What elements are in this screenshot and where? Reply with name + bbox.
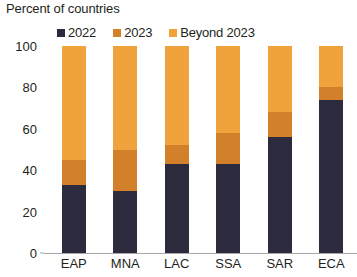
x-axis-tick-label: LAC bbox=[151, 256, 203, 272]
bar-segment[interactable] bbox=[268, 46, 292, 112]
y-axis-tick-label: 0 bbox=[30, 247, 37, 260]
bar-segment[interactable] bbox=[62, 160, 86, 185]
bar-group[interactable] bbox=[268, 46, 292, 253]
bar-segment[interactable] bbox=[216, 133, 240, 164]
bar-segment[interactable] bbox=[268, 112, 292, 137]
bar-segment[interactable] bbox=[319, 46, 343, 87]
plot-area bbox=[48, 46, 357, 253]
bar-segment[interactable] bbox=[62, 185, 86, 253]
bar-stack bbox=[268, 46, 292, 253]
stacked-bar-chart: Percent of countries 20222023Beyond 2023… bbox=[0, 0, 357, 277]
bar-segment[interactable] bbox=[113, 191, 137, 253]
bar-group[interactable] bbox=[62, 46, 86, 253]
bar-group[interactable] bbox=[216, 46, 240, 253]
y-axis-tick-label: 60 bbox=[23, 122, 37, 135]
x-axis-tick-label: SAR bbox=[254, 256, 306, 272]
y-axis-tick-label: 20 bbox=[23, 205, 37, 218]
legend-swatch-icon bbox=[113, 29, 121, 37]
bar-segment[interactable] bbox=[113, 150, 137, 191]
bar-segment[interactable] bbox=[165, 164, 189, 253]
bar-segment[interactable] bbox=[113, 46, 137, 150]
legend-item-beyond-2023[interactable]: Beyond 2023 bbox=[169, 26, 254, 39]
x-axis-tick-label: EAP bbox=[48, 256, 100, 272]
x-axis: EAPMNALACSSASARECA bbox=[48, 256, 357, 276]
legend-swatch-icon bbox=[169, 29, 177, 37]
x-axis-tick-label: ECA bbox=[306, 256, 357, 272]
bar-stack bbox=[216, 46, 240, 253]
y-axis-tick-label: 40 bbox=[23, 164, 37, 177]
x-axis-tick-label: SSA bbox=[203, 256, 255, 272]
legend-item-2022[interactable]: 2022 bbox=[57, 26, 96, 39]
bar-segment[interactable] bbox=[319, 87, 343, 99]
y-axis-tick-label: 80 bbox=[23, 81, 37, 94]
bar-segment[interactable] bbox=[165, 145, 189, 164]
legend-item-2023[interactable]: 2023 bbox=[113, 26, 152, 39]
bar-stack bbox=[62, 46, 86, 253]
bar-stack bbox=[113, 46, 137, 253]
bar-stack bbox=[165, 46, 189, 253]
bar-group[interactable] bbox=[319, 46, 343, 253]
legend-label: 2023 bbox=[124, 26, 152, 39]
chart-legend: 20222023Beyond 2023 bbox=[57, 25, 255, 40]
bar-stack bbox=[319, 46, 343, 253]
bar-segment[interactable] bbox=[268, 137, 292, 253]
chart-title: Percent of countries bbox=[6, 2, 120, 16]
bar-segment[interactable] bbox=[165, 46, 189, 145]
x-axis-baseline bbox=[44, 253, 357, 254]
legend-label: Beyond 2023 bbox=[180, 26, 254, 39]
bar-segment[interactable] bbox=[62, 46, 86, 160]
y-axis-tick-label: 100 bbox=[15, 40, 37, 53]
legend-swatch-icon bbox=[57, 29, 65, 37]
y-axis: 020406080100 bbox=[0, 46, 44, 253]
x-axis-tick-label: MNA bbox=[100, 256, 152, 272]
bar-segment[interactable] bbox=[216, 164, 240, 253]
legend-label: 2022 bbox=[68, 26, 96, 39]
bar-group[interactable] bbox=[165, 46, 189, 253]
bar-segment[interactable] bbox=[319, 100, 343, 253]
bar-segment[interactable] bbox=[216, 46, 240, 133]
bar-group[interactable] bbox=[113, 46, 137, 253]
